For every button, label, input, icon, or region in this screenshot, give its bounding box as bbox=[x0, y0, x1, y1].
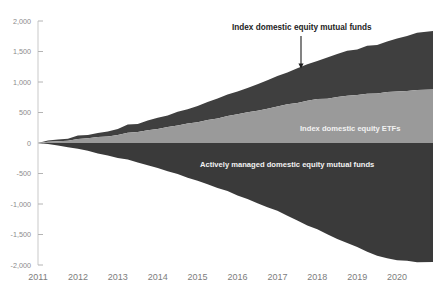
y-tick-label: -1,500 bbox=[11, 230, 31, 239]
chart-canvas: 2,0001,5001,0005000-500-1,000-1,500-2,00… bbox=[0, 0, 444, 294]
index-etfs-annotation-label: Index domestic equity ETFs bbox=[300, 124, 400, 133]
index-mutual-funds-annotation-label: Index domestic equity mutual funds bbox=[232, 23, 372, 32]
y-tick-label: 0 bbox=[27, 139, 31, 148]
y-tick-label: 1,000 bbox=[13, 78, 31, 87]
x-tick-label: 2015 bbox=[188, 272, 208, 282]
x-tick-label: 2016 bbox=[227, 272, 247, 282]
x-tick-label: 2011 bbox=[28, 272, 47, 282]
actively-managed-annotation: Actively managed domestic equity mutual … bbox=[200, 160, 374, 169]
x-tick-label: 2019 bbox=[347, 272, 367, 282]
actively-managed-annotation-label: Actively managed domestic equity mutual … bbox=[200, 160, 374, 169]
x-tick-label: 2014 bbox=[148, 272, 168, 282]
x-tick-label: 2013 bbox=[108, 272, 128, 282]
x-axis: 2011201220132014201520162017201820192020 bbox=[28, 272, 407, 282]
y-tick-label: 500 bbox=[19, 108, 31, 117]
x-tick-label: 2017 bbox=[267, 272, 287, 282]
x-tick-label: 2012 bbox=[68, 272, 88, 282]
x-tick-label: 2020 bbox=[387, 272, 407, 282]
y-tick-label: -2,000 bbox=[11, 261, 31, 270]
index-etfs-annotation: Index domestic equity ETFs bbox=[300, 124, 400, 133]
y-tick-label: 1,500 bbox=[13, 47, 31, 56]
x-tick-label: 2018 bbox=[307, 272, 327, 282]
stacked-area-chart: 2,0001,5001,0005000-500-1,000-1,500-2,00… bbox=[0, 0, 444, 294]
y-tick-label: 2,000 bbox=[13, 17, 31, 26]
y-tick-label: -1,000 bbox=[11, 200, 31, 209]
y-tick-label: -500 bbox=[17, 169, 31, 178]
